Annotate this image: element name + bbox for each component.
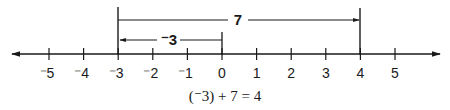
tick-label: 0 <box>218 65 226 81</box>
axis-ticks: ⁻5⁻4⁻3⁻2⁻1012345 <box>40 48 400 81</box>
span-negative-three: ⁻3 <box>120 31 222 55</box>
span-label-seven: 7 <box>234 11 242 28</box>
tick-label: 2 <box>287 65 295 81</box>
number-line-diagram: ⁻5⁻4⁻3⁻2⁻1012345 7 ⁻3 (⁻3) + 7 = 4 <box>0 0 450 110</box>
tick-label: ⁻2 <box>143 65 158 81</box>
tick-label: 5 <box>391 65 399 81</box>
tick-label: ⁻1 <box>178 65 193 81</box>
tick-label: 1 <box>253 65 261 81</box>
equation: (⁻3) + 7 = 4 <box>189 88 262 105</box>
tick-label: ⁻5 <box>40 65 55 81</box>
span-label-negative-three: ⁻3 <box>161 31 177 48</box>
tick-label: 4 <box>357 65 365 81</box>
tick-label: ⁻3 <box>109 65 124 81</box>
tick-label: ⁻4 <box>74 65 89 81</box>
tick-label: 3 <box>322 65 330 81</box>
span-seven: 7 <box>118 7 360 55</box>
